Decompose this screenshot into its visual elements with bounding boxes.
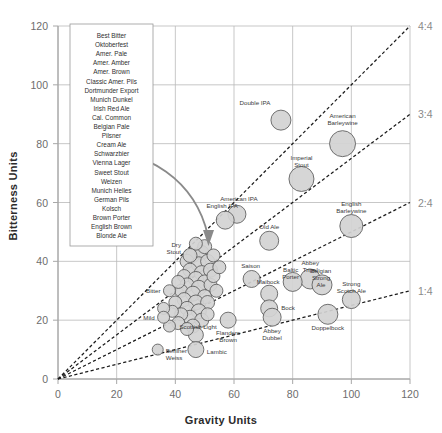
- x-tick-label: 40: [169, 388, 181, 400]
- legend-item: English Brown: [91, 223, 132, 231]
- ratio-label: 2:4: [418, 197, 433, 209]
- legend-item: Amer. Pale: [96, 50, 128, 57]
- y-tick-label: 100: [30, 79, 48, 91]
- y-tick-label: 120: [30, 20, 48, 32]
- point-label: Mild: [143, 314, 155, 321]
- legend-item: Oktoberfest: [95, 41, 128, 48]
- legend-item: Blonde Ale: [96, 232, 127, 239]
- data-bubble[interactable]: [340, 215, 363, 238]
- legend-item: Best Bitter: [97, 32, 127, 39]
- x-axis-title: Gravity Units: [185, 414, 257, 426]
- data-bubble[interactable]: [263, 308, 281, 326]
- legend-item: Cal. Common: [92, 114, 132, 121]
- style-legend: Best BitterOktoberfestAmer. PaleAmer. Am…: [70, 24, 153, 246]
- data-bubble[interactable]: [271, 110, 291, 130]
- legend-item: Weizen: [101, 178, 123, 185]
- y-axis-title: Bitterness Units: [7, 151, 19, 240]
- data-bubble[interactable]: [183, 248, 197, 262]
- data-bubble[interactable]: [158, 311, 170, 323]
- point-label: Double IPA: [240, 99, 272, 106]
- point-label: Scottish Light: [179, 323, 216, 330]
- legend-item: German Pils: [94, 196, 129, 203]
- point-label: Saison: [241, 262, 260, 269]
- x-tick-label: 100: [343, 388, 361, 400]
- data-bubble[interactable]: [188, 342, 204, 358]
- point-label: Maibock: [257, 278, 281, 285]
- data-bubble[interactable]: [210, 284, 223, 297]
- legend-item: Brown Porter: [93, 214, 131, 221]
- chart-svg: Double IPAAmericanBarleywineImperialStou…: [0, 0, 442, 433]
- data-bubble[interactable]: [220, 312, 236, 328]
- legend-item: Schwarzbier: [94, 150, 130, 157]
- data-bubble[interactable]: [260, 231, 279, 250]
- y-tick-label: 60: [36, 197, 48, 209]
- legend-item: Classic Amer. Pils: [86, 78, 137, 85]
- legend-item: Sweet Stout: [94, 169, 129, 176]
- point-label: AmericanBarleywine: [327, 112, 358, 126]
- data-bubble[interactable]: [201, 308, 214, 321]
- legend-item: Munich Helles: [91, 187, 131, 194]
- x-tick-label: 20: [111, 388, 123, 400]
- legend-item: Vienna Lager: [93, 159, 132, 167]
- ratio-label: 3:4: [418, 108, 433, 120]
- point-label: Old Ale: [259, 223, 280, 230]
- legend-item: Amer. Brown: [93, 68, 130, 75]
- bubble-chart: Double IPAAmericanBarleywineImperialStou…: [0, 0, 442, 433]
- x-tick-label: 0: [55, 388, 61, 400]
- y-tick-label: 40: [36, 255, 48, 267]
- data-bubble[interactable]: [213, 261, 226, 274]
- legend-item: Kolsch: [102, 205, 122, 212]
- point-label: Lambic: [207, 348, 227, 355]
- point-label: English IPA: [206, 202, 238, 209]
- y-tick-label: 0: [42, 373, 48, 385]
- data-bubble[interactable]: [152, 344, 163, 355]
- legend-item: Irish Red Ale: [93, 105, 130, 112]
- legend-item: Munich Dunkel: [90, 96, 132, 103]
- legend-item: Pilsner: [102, 132, 122, 139]
- ratio-label: 4:4: [418, 20, 433, 32]
- point-label: Doppelbock: [312, 324, 346, 331]
- data-bubble[interactable]: [163, 285, 175, 297]
- legend-item: Amer. Amber: [93, 59, 131, 66]
- point-label: Bock: [281, 304, 296, 311]
- point-label: AbbeyDubbel: [262, 327, 282, 341]
- x-tick-label: 60: [228, 388, 240, 400]
- data-bubble[interactable]: [207, 249, 220, 262]
- x-tick-label: 80: [287, 388, 299, 400]
- data-bubble[interactable]: [216, 211, 234, 229]
- y-tick-label: 20: [36, 314, 48, 326]
- point-label: FlandersBrown: [216, 329, 240, 343]
- legend-item: Cream Ale: [97, 141, 127, 148]
- point-label: BalticPorter: [282, 266, 299, 280]
- x-tick-label: 120: [401, 388, 419, 400]
- point-label: Bitter: [146, 287, 160, 294]
- legend-item: Belgian Pale: [94, 123, 130, 131]
- y-tick-label: 80: [36, 138, 48, 150]
- data-bubble[interactable]: [318, 304, 338, 324]
- data-bubble[interactable]: [289, 166, 314, 191]
- ratio-label: 1:4: [418, 285, 433, 297]
- legend-item: Dortmunder Export: [85, 87, 139, 95]
- data-bubble[interactable]: [330, 131, 356, 157]
